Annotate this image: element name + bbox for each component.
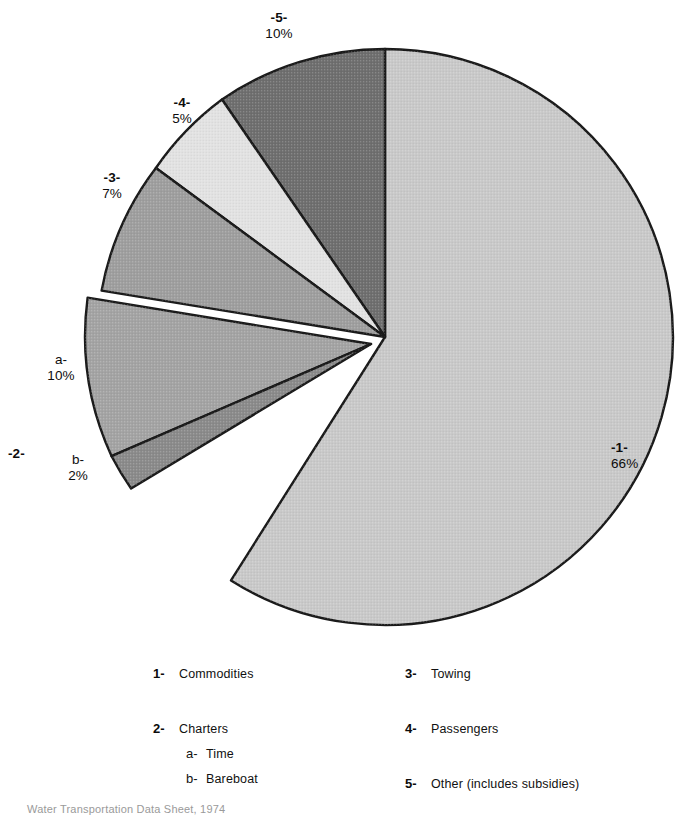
slice-callout-other-index: -5-	[243, 10, 315, 26]
legend-item-passengers[interactable]: 4-Passengers	[405, 721, 655, 737]
pie-chart-figure: -5- 10% -4- 5% -3- 7% a- 10% b- 2% -2- -…	[0, 0, 679, 816]
legend-item-passengers-label: Passengers	[431, 722, 499, 737]
legend-item-charters[interactable]: 2-Charters a-Time b-Bareboat	[153, 721, 373, 787]
legend-subitem-time-key: a-	[186, 746, 206, 761]
legend-item-commodities-label: Commodities	[179, 667, 254, 682]
chart-legend: 1-Commodities 2-Charters a-Time b-Barebo…	[0, 666, 679, 786]
slice-callout-charters-time-index: a-	[25, 352, 97, 368]
slice-callout-charters-bareboat-percent: 2%	[42, 468, 114, 484]
legend-column-right: 3-Towing 4-Passengers 5-Other (includes …	[405, 666, 655, 816]
source-caption: Water Transportation Data Sheet, 1974	[27, 803, 225, 816]
legend-item-passengers-key: 4-	[405, 721, 431, 736]
legend-item-other-label: Other (includes subsidies)	[431, 777, 579, 792]
legend-item-towing-key: 3-	[405, 666, 431, 681]
slice-callout-towing-percent: 7%	[76, 186, 148, 202]
legend-item-towing-label: Towing	[431, 667, 471, 682]
slice-callout-charters-group: -2-	[8, 446, 62, 462]
legend-subitem-bareboat[interactable]: b-Bareboat	[186, 771, 373, 787]
slice-callout-passengers-percent: 5%	[146, 111, 218, 127]
slice-callout-commodities-index: -1-	[611, 440, 673, 456]
legend-item-charters-key: 2-	[153, 721, 179, 736]
slice-callout-towing: -3- 7%	[76, 170, 148, 201]
slice-callout-charters-time: a- 10%	[25, 352, 97, 383]
slice-callout-other: -5- 10%	[243, 10, 315, 41]
slice-callout-towing-index: -3-	[76, 170, 148, 186]
slice-callout-commodities: -1- 66%	[611, 440, 673, 471]
slice-callout-passengers-index: -4-	[146, 95, 218, 111]
slice-callout-passengers: -4- 5%	[146, 95, 218, 126]
legend-item-commodities-key: 1-	[153, 666, 179, 681]
slice-callout-charters-time-percent: 10%	[25, 368, 97, 384]
legend-item-other-key: 5-	[405, 776, 431, 791]
legend-item-charters-label: Charters	[179, 722, 228, 737]
slice-callout-other-percent: 10%	[243, 26, 315, 42]
legend-item-other[interactable]: 5-Other (includes subsidies)	[405, 776, 655, 792]
legend-column-left: 1-Commodities 2-Charters a-Time b-Barebo…	[153, 666, 373, 816]
legend-item-commodities[interactable]: 1-Commodities	[153, 666, 373, 682]
legend-item-towing[interactable]: 3-Towing	[405, 666, 655, 682]
slice-callout-commodities-percent: 66%	[611, 456, 673, 472]
legend-subitem-time-label: Time	[206, 747, 234, 762]
legend-subitem-time[interactable]: a-Time	[186, 746, 373, 762]
legend-subitem-bareboat-key: b-	[186, 771, 206, 786]
legend-subitem-bareboat-label: Bareboat	[206, 772, 258, 787]
